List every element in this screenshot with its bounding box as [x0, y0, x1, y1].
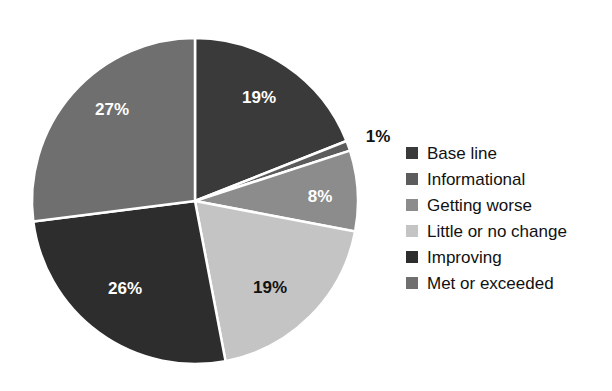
pie-chart-plot-area: 19%1%8%19%26%27% [0, 0, 400, 391]
legend-swatch-icon [406, 225, 418, 237]
pie-slice-label: 1% [366, 128, 391, 145]
legend-item-label: Improving [427, 249, 502, 266]
pie-slice[interactable] [32, 38, 195, 221]
legend-item-label: Met or exceeded [427, 275, 554, 292]
chart-legend: Base lineInformationalGetting worseLittl… [406, 140, 606, 296]
legend-item-label: Base line [427, 145, 497, 162]
legend-item[interactable]: Met or exceeded [406, 270, 606, 296]
legend-swatch-icon [406, 199, 418, 211]
pie-slice-label: 19% [242, 89, 276, 106]
legend-item[interactable]: Getting worse [406, 192, 606, 218]
pie-chart-figure: 19%1%8%19%26%27% Base lineInformationalG… [0, 0, 612, 391]
legend-item[interactable]: Improving [406, 244, 606, 270]
pie-chart-svg [0, 0, 400, 391]
legend-item[interactable]: Little or no change [406, 218, 606, 244]
legend-item-label: Informational [427, 171, 525, 188]
pie-slice-label: 26% [108, 280, 142, 297]
legend-item[interactable]: Informational [406, 166, 606, 192]
pie-slice-label: 8% [308, 188, 333, 205]
legend-swatch-icon [406, 251, 418, 263]
legend-swatch-icon [406, 173, 418, 185]
legend-swatch-icon [406, 277, 418, 289]
pie-slice-label: 27% [95, 101, 129, 118]
pie-slice-label: 19% [253, 279, 287, 296]
legend-swatch-icon [406, 147, 418, 159]
legend-item[interactable]: Base line [406, 140, 606, 166]
legend-item-label: Little or no change [427, 223, 567, 240]
legend-item-label: Getting worse [427, 197, 532, 214]
